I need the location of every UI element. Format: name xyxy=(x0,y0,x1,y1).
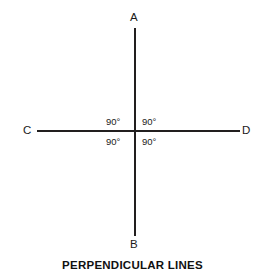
endpoint-label-d: D xyxy=(242,125,251,137)
endpoint-label-c: C xyxy=(23,125,32,137)
figure-caption: PERPENDICULAR LINES xyxy=(0,259,265,272)
horizontal-line-cd xyxy=(37,130,240,132)
angle-label-bottom-right: 90° xyxy=(142,137,156,147)
angle-label-top-left: 90° xyxy=(106,117,120,127)
perpendicular-lines-figure: A B C D 90° 90° 90° 90° PERPENDICULAR LI… xyxy=(0,0,265,279)
vertical-line-ab xyxy=(134,28,136,236)
angle-label-top-right: 90° xyxy=(142,117,156,127)
endpoint-label-a: A xyxy=(130,12,138,24)
angle-label-bottom-left: 90° xyxy=(106,137,120,147)
endpoint-label-b: B xyxy=(130,239,138,251)
